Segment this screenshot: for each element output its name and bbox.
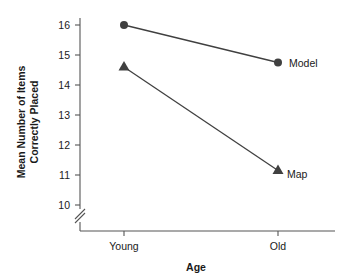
y-axis-title-line2: Correctly Placed — [28, 81, 40, 164]
y-tick-label-10: 10 — [58, 199, 70, 211]
series-map-point-old — [273, 165, 284, 175]
x-axis-title: Age — [186, 261, 206, 273]
y-axis-title-line1: Mean Number of Items — [15, 66, 27, 179]
y-tick-label-13: 13 — [58, 109, 70, 121]
y-tick-label-11: 11 — [59, 169, 70, 181]
series-map-line — [124, 67, 278, 171]
x-tick-label-young: Young — [109, 240, 139, 252]
y-tick-label-16: 16 — [58, 19, 70, 31]
series-label-map: Map — [287, 168, 308, 180]
x-tick-marks — [124, 231, 278, 236]
series-model-line — [124, 25, 278, 63]
y-axis-title: Mean Number of Items Correctly Placed — [15, 66, 40, 179]
y-tick-label-15: 15 — [58, 49, 70, 61]
chart-container: 16 15 14 13 12 11 10 Young Old Age Mean … — [0, 0, 352, 280]
series-model-point-old — [274, 59, 282, 67]
series-model: Model — [120, 21, 318, 69]
y-tick-label-12: 12 — [58, 139, 70, 151]
line-chart: 16 15 14 13 12 11 10 Young Old Age Mean … — [0, 0, 352, 280]
series-label-model: Model — [289, 57, 318, 69]
y-tick-marks — [75, 25, 80, 205]
axis-break-icon — [75, 209, 85, 223]
series-map-point-young — [119, 61, 130, 71]
x-tick-label-old: Old — [270, 240, 287, 252]
series-model-point-young — [120, 21, 128, 29]
y-tick-label-14: 14 — [58, 79, 70, 91]
series-map: Map — [119, 61, 308, 180]
